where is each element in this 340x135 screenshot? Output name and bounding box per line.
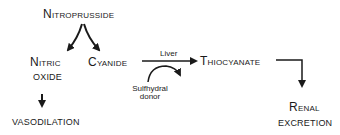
node-vasodilation: VASODILATION xyxy=(12,118,80,127)
edge-label-liver: Liver xyxy=(160,50,177,58)
node-renal-line1: Renal xyxy=(289,101,320,113)
node-nitroprusside: Nitroprusside xyxy=(43,8,114,20)
node-nitric-oxide-line2: OXIDE xyxy=(33,73,62,82)
node-sulfhydral-donor: Sulfhydral donor xyxy=(130,85,170,102)
node-nitric-oxide-line1: Nitric xyxy=(30,56,61,68)
sulfhydral-line2: donor xyxy=(130,93,170,101)
arrow-to-nitric-oxide xyxy=(68,24,82,50)
arrow-to-cyanide xyxy=(84,24,99,50)
diagram-canvas: Nitroprusside Nitric OXIDE Cyanide Liver… xyxy=(0,0,340,135)
arrow-to-renal-excretion xyxy=(276,60,302,86)
node-thiocyanate: Thiocyanate xyxy=(200,55,260,67)
node-cyanide: Cyanide xyxy=(88,56,127,68)
node-renal-line2: EXCRETION xyxy=(278,119,332,128)
arrow-sulfhydral-donor xyxy=(148,66,180,82)
